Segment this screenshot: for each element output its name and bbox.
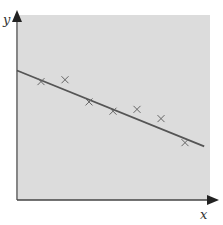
plot-area [18,15,210,200]
y-axis-label: y [2,12,11,27]
x-axis-label: x [200,207,208,222]
scatter-chart: y x [0,0,223,225]
x-axis-arrow-icon [207,195,219,205]
